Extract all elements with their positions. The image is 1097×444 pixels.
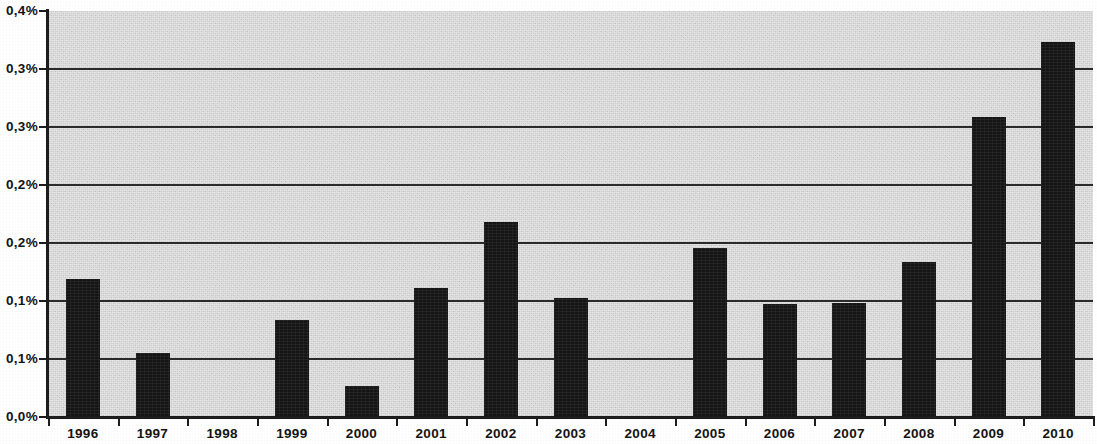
- y-axis-tick: [39, 184, 48, 186]
- x-axis-tick: [814, 419, 816, 426]
- x-axis-label-1998: 1998: [187, 426, 257, 441]
- x-axis-label-2001: 2001: [396, 426, 466, 441]
- y-axis-tick: [39, 126, 48, 128]
- y-axis-tick: [39, 358, 48, 360]
- x-axis-tick: [327, 419, 329, 426]
- x-axis-label-1999: 1999: [257, 426, 327, 441]
- x-axis-tick: [1093, 419, 1095, 426]
- y-axis-tick: [39, 300, 48, 302]
- bar-2003: [554, 298, 588, 417]
- x-axis-tick: [187, 419, 189, 426]
- bar-texture: [763, 304, 797, 417]
- y-axis-label: 0,1%: [0, 293, 38, 308]
- bar-texture: [345, 386, 379, 417]
- x-axis-tick: [954, 419, 956, 426]
- y-axis-label: 0,0%: [0, 409, 38, 424]
- gridline: [48, 68, 1093, 70]
- bar-chart: 0,0%0,1%0,1%0,2%0,2%0,3%0,3%0,4% 1996199…: [0, 0, 1097, 444]
- bar-texture: [414, 288, 448, 417]
- y-axis-label: 0,4%: [0, 3, 38, 18]
- bar-texture: [902, 262, 936, 417]
- y-axis-label: 0,3%: [0, 61, 38, 76]
- x-axis-label-2010: 2010: [1023, 426, 1093, 441]
- plot-area: [48, 11, 1093, 417]
- bar-2007: [832, 303, 866, 417]
- bar-texture: [66, 279, 100, 417]
- x-axis-label-2004: 2004: [605, 426, 675, 441]
- x-axis-tick: [118, 419, 120, 426]
- x-axis-label-2006: 2006: [745, 426, 815, 441]
- x-axis-tick: [745, 419, 747, 426]
- y-axis-label: 0,1%: [0, 351, 38, 366]
- bar-2006: [763, 304, 797, 417]
- bar-texture: [1041, 42, 1075, 417]
- x-axis-label-2000: 2000: [327, 426, 397, 441]
- y-axis-tick: [39, 242, 48, 244]
- gridline: [48, 242, 1093, 244]
- x-axis-tick: [257, 419, 259, 426]
- bar-texture: [484, 222, 518, 417]
- x-axis-label-2005: 2005: [675, 426, 745, 441]
- bar-2010: [1041, 42, 1075, 417]
- y-axis-tick: [39, 68, 48, 70]
- x-axis-tick: [536, 419, 538, 426]
- x-axis-tick: [48, 419, 50, 426]
- bar-1997: [136, 353, 170, 417]
- bar-texture: [693, 248, 727, 417]
- bar-2005: [693, 248, 727, 417]
- x-axis-tick: [466, 419, 468, 426]
- x-axis-label-2008: 2008: [884, 426, 954, 441]
- y-axis-tick: [39, 10, 48, 12]
- bar-1999: [275, 320, 309, 417]
- x-axis-label-2003: 2003: [536, 426, 606, 441]
- gridline: [48, 184, 1093, 186]
- y-axis-label: 0,2%: [0, 177, 38, 192]
- x-axis-tick: [675, 419, 677, 426]
- x-axis-label-1996: 1996: [48, 426, 118, 441]
- bar-texture: [832, 303, 866, 417]
- y-axis-label: 0,3%: [0, 119, 38, 134]
- y-axis-label: 0,2%: [0, 235, 38, 250]
- bar-2008: [902, 262, 936, 417]
- bar-texture: [554, 298, 588, 417]
- x-axis-tick: [1023, 419, 1025, 426]
- bar-2000: [345, 386, 379, 417]
- bar-2001: [414, 288, 448, 417]
- bar-texture: [136, 353, 170, 417]
- x-axis-line: [46, 416, 1095, 419]
- x-axis-label-2009: 2009: [954, 426, 1024, 441]
- y-axis-tick: [39, 416, 48, 418]
- x-axis-label-2007: 2007: [814, 426, 884, 441]
- gridline: [48, 126, 1093, 128]
- bar-2009: [972, 117, 1006, 417]
- x-axis-tick: [396, 419, 398, 426]
- bar-1996: [66, 279, 100, 417]
- bar-2002: [484, 222, 518, 417]
- x-axis-label-1997: 1997: [118, 426, 188, 441]
- bar-texture: [275, 320, 309, 417]
- x-axis-label-2002: 2002: [466, 426, 536, 441]
- x-axis-tick: [605, 419, 607, 426]
- bar-texture: [972, 117, 1006, 417]
- x-axis-tick: [884, 419, 886, 426]
